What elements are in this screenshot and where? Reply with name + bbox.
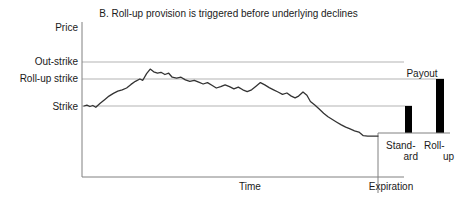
rollup-payout-bar bbox=[436, 79, 444, 133]
standard-bar-label-line2: ard bbox=[386, 151, 418, 162]
y-tick-rollup-strike: Roll-up strike bbox=[0, 73, 78, 84]
standard-bar-label-line1: Stand- bbox=[386, 140, 418, 151]
payout-heading: Payout bbox=[392, 68, 452, 79]
y-axis-title: Price bbox=[8, 22, 78, 33]
rollup-bar-label-line2: up bbox=[424, 151, 454, 162]
x-tick-expiration: Expiration bbox=[352, 181, 430, 192]
rollup-bar-label: Roll- up bbox=[424, 140, 454, 162]
x-axis-title: Time bbox=[200, 181, 300, 192]
chart-figure: B. Roll-up provision is triggered before… bbox=[0, 0, 457, 203]
standard-payout-bar bbox=[405, 106, 412, 133]
y-tick-strike: Strike bbox=[0, 101, 78, 112]
standard-bar-label: Stand- ard bbox=[386, 140, 418, 162]
y-tick-out-strike: Out-strike bbox=[0, 56, 78, 67]
rollup-bar-label-line1: Roll- bbox=[424, 140, 454, 151]
